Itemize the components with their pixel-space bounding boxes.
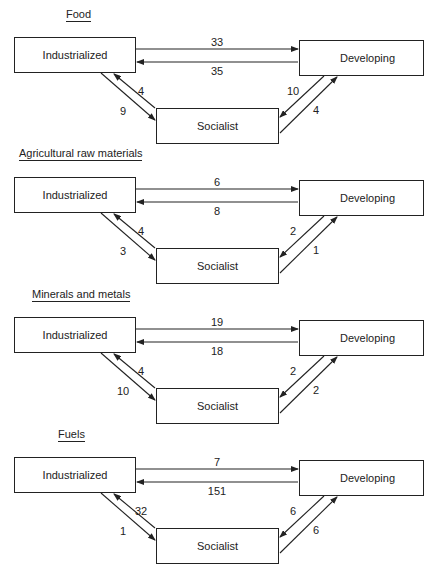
value-socialist-to-industrialized: 4 bbox=[138, 85, 144, 97]
node-label: Socialist bbox=[197, 540, 238, 552]
node-label: Industrialized bbox=[43, 49, 108, 61]
node-industrialized: Industrialized bbox=[14, 457, 136, 493]
value-socialist-to-industrialized: 4 bbox=[138, 365, 144, 377]
value-developing-to-socialist: 6 bbox=[290, 505, 296, 517]
value-developing-to-industrialized: 8 bbox=[214, 205, 220, 217]
value-industrialized-to-socialist: 10 bbox=[117, 385, 129, 397]
value-industrialized-to-developing: 7 bbox=[214, 456, 220, 468]
node-label: Developing bbox=[340, 192, 395, 204]
panel-title: Fuels bbox=[58, 428, 85, 442]
node-developing: Developing bbox=[299, 320, 424, 356]
node-socialist: Socialist bbox=[156, 528, 279, 564]
value-industrialized-to-socialist: 9 bbox=[120, 105, 126, 117]
value-socialist-to-industrialized: 32 bbox=[135, 505, 147, 517]
value-developing-to-industrialized: 151 bbox=[208, 485, 226, 497]
node-label: Developing bbox=[340, 472, 395, 484]
node-label: Industrialized bbox=[43, 189, 108, 201]
arrow-industrialized-to-socialist bbox=[101, 213, 155, 260]
commodity-panel-3: Fuels Industrialized Developing Socialis… bbox=[0, 420, 434, 560]
value-industrialized-to-socialist: 1 bbox=[120, 525, 126, 537]
arrow-socialist-to-industrialized bbox=[114, 214, 155, 248]
arrow-socialist-to-developing bbox=[280, 357, 337, 413]
value-industrialized-to-developing: 19 bbox=[211, 316, 223, 328]
node-label: Socialist bbox=[197, 120, 238, 132]
node-socialist: Socialist bbox=[156, 388, 279, 424]
arrow-socialist-to-industrialized bbox=[114, 74, 155, 108]
node-label: Developing bbox=[340, 332, 395, 344]
node-developing: Developing bbox=[299, 40, 424, 76]
arrow-industrialized-to-socialist bbox=[101, 73, 155, 120]
node-developing: Developing bbox=[299, 180, 424, 216]
value-industrialized-to-developing: 33 bbox=[211, 36, 223, 48]
node-industrialized: Industrialized bbox=[14, 177, 136, 213]
node-socialist: Socialist bbox=[156, 108, 279, 144]
panel-title: Minerals and metals bbox=[32, 288, 130, 302]
node-industrialized: Industrialized bbox=[14, 37, 136, 73]
value-industrialized-to-socialist: 3 bbox=[120, 245, 126, 257]
panel-title: Food bbox=[66, 8, 91, 22]
arrow-socialist-to-developing bbox=[280, 497, 337, 553]
value-developing-to-industrialized: 18 bbox=[211, 345, 223, 357]
value-developing-to-socialist: 2 bbox=[290, 365, 296, 377]
value-socialist-to-developing: 1 bbox=[313, 244, 319, 256]
node-label: Industrialized bbox=[43, 329, 108, 341]
value-developing-to-socialist: 2 bbox=[290, 225, 296, 237]
commodity-panel-2: Minerals and metals Industrialized Devel… bbox=[0, 280, 434, 420]
node-developing: Developing bbox=[299, 460, 424, 496]
node-label: Industrialized bbox=[43, 469, 108, 481]
node-label: Developing bbox=[340, 52, 395, 64]
node-label: Socialist bbox=[197, 400, 238, 412]
value-industrialized-to-developing: 6 bbox=[214, 176, 220, 188]
arrow-socialist-to-industrialized bbox=[114, 354, 155, 388]
value-developing-to-socialist: 10 bbox=[287, 85, 299, 97]
arrow-socialist-to-developing bbox=[280, 217, 337, 273]
panel-title: Agricultural raw materials bbox=[19, 147, 142, 161]
commodity-panel-0: Food Industrialized Developing Socialist… bbox=[0, 0, 434, 140]
value-socialist-to-developing: 4 bbox=[313, 104, 319, 116]
value-socialist-to-developing: 2 bbox=[313, 384, 319, 396]
value-socialist-to-industrialized: 4 bbox=[138, 225, 144, 237]
node-label: Socialist bbox=[197, 260, 238, 272]
value-socialist-to-developing: 6 bbox=[313, 524, 319, 536]
node-industrialized: Industrialized bbox=[14, 317, 136, 353]
node-socialist: Socialist bbox=[156, 248, 279, 284]
value-developing-to-industrialized: 35 bbox=[211, 65, 223, 77]
commodity-panel-1: Agricultural raw materials Industrialize… bbox=[0, 140, 434, 280]
